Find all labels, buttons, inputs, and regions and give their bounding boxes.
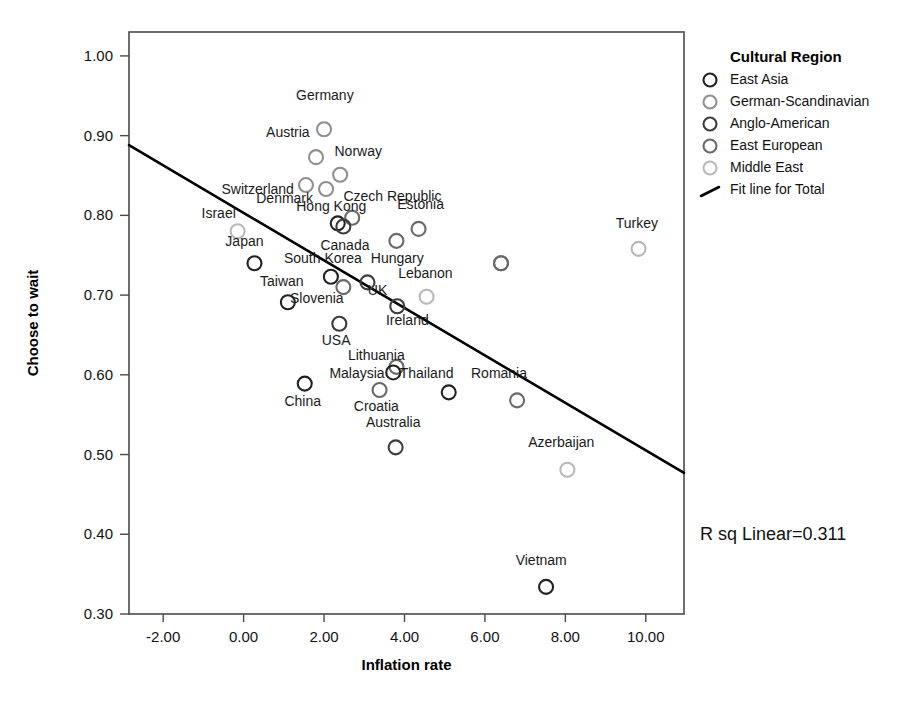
data-point-label: Azerbaijan [528, 434, 594, 450]
x-axis-tick-label: 2.00 [309, 628, 338, 645]
y-axis-tick-label: 1.00 [84, 47, 113, 64]
data-point-marker[interactable] [560, 463, 574, 477]
data-point-marker[interactable] [324, 270, 338, 284]
y-axis-tick-label: 0.80 [84, 206, 113, 223]
data-point-marker[interactable] [412, 222, 426, 236]
data-point-label: Thailand [400, 365, 454, 381]
y-axis-tick-label: 0.70 [84, 286, 113, 303]
legend-item-label[interactable]: Fit line for Total [730, 181, 825, 197]
data-point-marker[interactable] [373, 383, 387, 397]
data-point-label: Romania [471, 365, 527, 381]
x-axis-tick-label: 0.00 [229, 628, 258, 645]
data-point-marker[interactable] [420, 290, 434, 304]
x-axis-tick-label: -2.00 [146, 628, 180, 645]
y-axis-tick-label: 0.30 [84, 605, 113, 622]
data-point-label: Austria [266, 124, 310, 140]
data-point-label: Hong Kong [296, 198, 366, 214]
data-point-marker[interactable] [389, 440, 403, 454]
data-point-marker[interactable] [247, 256, 261, 270]
legend-marker-swatch [704, 118, 717, 131]
legend-marker-swatch [704, 140, 717, 153]
data-point-marker[interactable] [332, 317, 346, 331]
data-point-label: Norway [335, 143, 382, 159]
legend-item-label[interactable]: Middle East [730, 159, 803, 175]
x-axis-tick-label: 6.00 [470, 628, 499, 645]
data-point-label: Lebanon [398, 265, 453, 281]
data-point-label: UK [368, 282, 388, 298]
scatter-plot: -2.000.002.004.006.008.0010.00Inflation … [0, 0, 913, 716]
data-point-label: USA [322, 332, 351, 348]
data-point-marker[interactable] [298, 377, 312, 391]
y-axis-tick-label: 0.60 [84, 366, 113, 383]
data-point-label: Israel [202, 205, 236, 221]
legend-item-label[interactable]: East European [730, 137, 823, 153]
legend-marker-swatch [704, 96, 717, 109]
x-axis-tick-label: 8.00 [551, 628, 580, 645]
legend-fit-line-swatch [701, 187, 719, 196]
r-squared-annotation: R sq Linear=0.311 [700, 524, 846, 544]
data-point-label: Germany [296, 87, 354, 103]
data-point-marker[interactable] [389, 234, 403, 248]
y-axis-tick-label: 0.90 [84, 127, 113, 144]
data-point-marker[interactable] [539, 580, 553, 594]
data-point-marker[interactable] [333, 168, 347, 182]
data-point-label: South Korea [284, 250, 362, 266]
chart-page: -2.000.002.004.006.008.0010.00Inflation … [0, 0, 913, 716]
x-axis-tick-label: 4.00 [390, 628, 419, 645]
data-point-label: Estonia [397, 196, 444, 212]
data-point-marker[interactable] [442, 385, 456, 399]
data-point-marker[interactable] [510, 393, 524, 407]
data-point-label: China [284, 393, 321, 409]
legend-item-label[interactable]: East Asia [730, 71, 789, 87]
data-point-label: Vietnam [516, 552, 567, 568]
data-point-label: Slovenia [290, 290, 344, 306]
y-axis-title: Choose to wait [24, 270, 41, 377]
y-axis-tick-label: 0.40 [84, 525, 113, 542]
data-point-label: Turkey [616, 215, 658, 231]
data-point-marker[interactable] [632, 242, 646, 256]
x-axis-title: Inflation rate [361, 656, 451, 673]
x-axis-tick-label: 10.00 [627, 628, 665, 645]
data-point-label: Ireland [386, 312, 429, 328]
data-point-marker[interactable] [319, 182, 333, 196]
legend-marker-swatch [704, 162, 717, 175]
legend-title: Cultural Region [730, 48, 842, 65]
data-point-label: Australia [366, 414, 421, 430]
legend-item-label[interactable]: German-Scandinavian [730, 93, 869, 109]
legend-item-label[interactable]: Anglo-American [730, 115, 830, 131]
data-point-label: Malaysia [329, 365, 384, 381]
y-axis-tick-label: 0.50 [84, 446, 113, 463]
data-point-marker[interactable] [309, 150, 323, 164]
data-point-marker[interactable] [494, 256, 508, 270]
data-point-label: Croatia [354, 398, 399, 414]
data-point-label: Taiwan [260, 273, 304, 289]
data-point-marker[interactable] [317, 122, 331, 136]
legend-marker-swatch [704, 74, 717, 87]
data-point-label: Lithuania [348, 347, 405, 363]
data-point-label: Japan [225, 233, 263, 249]
